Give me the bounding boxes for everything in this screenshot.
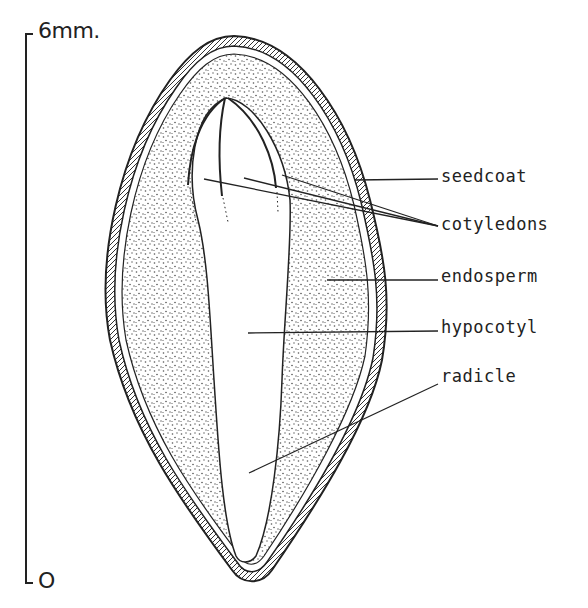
scale-bottom-label: O [38, 568, 55, 593]
seed-diagram [0, 0, 588, 608]
leader-seedcoat [355, 179, 438, 180]
label-endosperm: endosperm [441, 266, 538, 286]
label-seedcoat: seedcoat [441, 166, 527, 186]
scale-top-label: 6mm. [38, 18, 100, 43]
label-cotyledons: cotyledons [441, 214, 548, 234]
label-radicle: radicle [441, 366, 516, 386]
scale-bar [26, 34, 33, 583]
label-hypocotyl: hypocotyl [441, 317, 538, 337]
